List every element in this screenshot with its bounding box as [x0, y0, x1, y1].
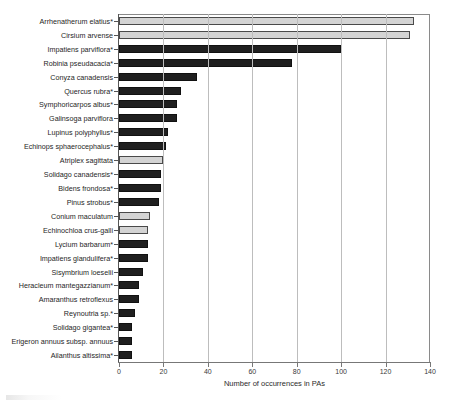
bars-layer [119, 14, 430, 362]
bar-chart: 020406080100120140 Arrhenatherum elatius… [0, 0, 450, 405]
y-tick [114, 230, 119, 231]
bar-row [119, 45, 430, 53]
category-label: Lupinus polyphyllus* [47, 128, 113, 137]
x-axis-line [118, 362, 431, 363]
bar [119, 128, 168, 136]
category-label: Robinia pseudacacia* [43, 58, 113, 67]
category-label: Atriplex sagittata [60, 156, 113, 165]
bar-row [119, 142, 430, 150]
bar [119, 100, 177, 108]
y-tick [114, 77, 119, 78]
bar-row [119, 198, 430, 206]
x-tick-0 [119, 362, 120, 367]
bar-row [119, 17, 430, 25]
bar-row [119, 281, 430, 289]
bar-row [119, 128, 430, 136]
bar-row [119, 309, 430, 317]
y-tick [114, 327, 119, 328]
y-tick [114, 216, 119, 217]
bar [119, 337, 132, 345]
category-label: Reynoutria sp.* [64, 309, 113, 318]
bar-row [119, 170, 430, 178]
y-tick [114, 21, 119, 22]
x-tick-120 [386, 362, 387, 367]
bar [119, 45, 341, 53]
y-tick [114, 160, 119, 161]
category-label: Sisymbrium loeselii [51, 267, 113, 276]
x-tick-label-120: 120 [380, 368, 392, 375]
gridline-60 [252, 14, 253, 362]
bar [119, 59, 292, 67]
category-label: Quercus rubra* [64, 86, 113, 95]
bar-row [119, 156, 430, 164]
bar-row [119, 295, 430, 303]
bar [119, 198, 159, 206]
y-tick [114, 341, 119, 342]
x-tick-80 [297, 362, 298, 367]
bar-row [119, 351, 430, 359]
gridline-120 [386, 14, 387, 362]
y-tick [114, 258, 119, 259]
category-label: Impatiens parviflora* [47, 44, 113, 53]
x-tick-60 [252, 362, 253, 367]
category-label: Bidens frondosa* [58, 184, 113, 193]
x-tick-label-140: 140 [424, 368, 436, 375]
category-label: Heracleum mantegazzianum* [19, 281, 113, 290]
bar-row [119, 59, 430, 67]
x-tick-label-0: 0 [117, 368, 121, 375]
category-label: Cirsium arvense [61, 30, 113, 39]
bar [119, 226, 148, 234]
x-tick-140 [430, 362, 431, 367]
bar [119, 295, 139, 303]
y-tick [114, 244, 119, 245]
bar [119, 212, 150, 220]
x-tick-label-40: 40 [204, 368, 212, 375]
y-tick [114, 49, 119, 50]
y-tick [114, 104, 119, 105]
bar-row [119, 212, 430, 220]
gridline-40 [208, 14, 209, 362]
category-label: Symphoricarpos albus* [39, 100, 113, 109]
bar-row [119, 184, 430, 192]
bar [119, 87, 181, 95]
bar [119, 73, 197, 81]
y-tick [114, 91, 119, 92]
y-tick [114, 132, 119, 133]
y-tick [114, 313, 119, 314]
category-label: Arrhenatherum elatius* [39, 16, 113, 25]
y-tick [114, 174, 119, 175]
bar [119, 170, 161, 178]
bar [119, 281, 139, 289]
bar-row [119, 323, 430, 331]
bar [119, 323, 132, 331]
category-label: Ailanthus altissima* [51, 351, 113, 360]
page-artifact [6, 395, 62, 400]
x-axis-title: Number of occurrences in PAs [119, 379, 430, 388]
y-tick [114, 299, 119, 300]
x-tick-100 [341, 362, 342, 367]
y-tick [114, 146, 119, 147]
bar [119, 142, 166, 150]
category-label: Conyza canadensis [50, 72, 113, 81]
plot-area [119, 14, 430, 362]
y-tick [114, 35, 119, 36]
y-tick [114, 355, 119, 356]
y-tick [114, 63, 119, 64]
y-tick [114, 118, 119, 119]
bar-row [119, 337, 430, 345]
x-tick-40 [208, 362, 209, 367]
category-label: Impatiens glandulifera* [40, 253, 113, 262]
x-tick-20 [163, 362, 164, 367]
category-label: Echinochloa crus-galli [43, 225, 113, 234]
y-tick [114, 272, 119, 273]
y-tick [114, 188, 119, 189]
bar [119, 351, 132, 359]
category-label: Echinops sphaerocephalus* [24, 142, 113, 151]
category-label: Solidago canadensis* [44, 170, 113, 179]
bar-row [119, 240, 430, 248]
category-label: Amaranthus retroflexus [39, 295, 113, 304]
y-tick [114, 285, 119, 286]
y-tick [114, 202, 119, 203]
bar-row [119, 226, 430, 234]
category-label: Pinus strobus* [67, 197, 113, 206]
